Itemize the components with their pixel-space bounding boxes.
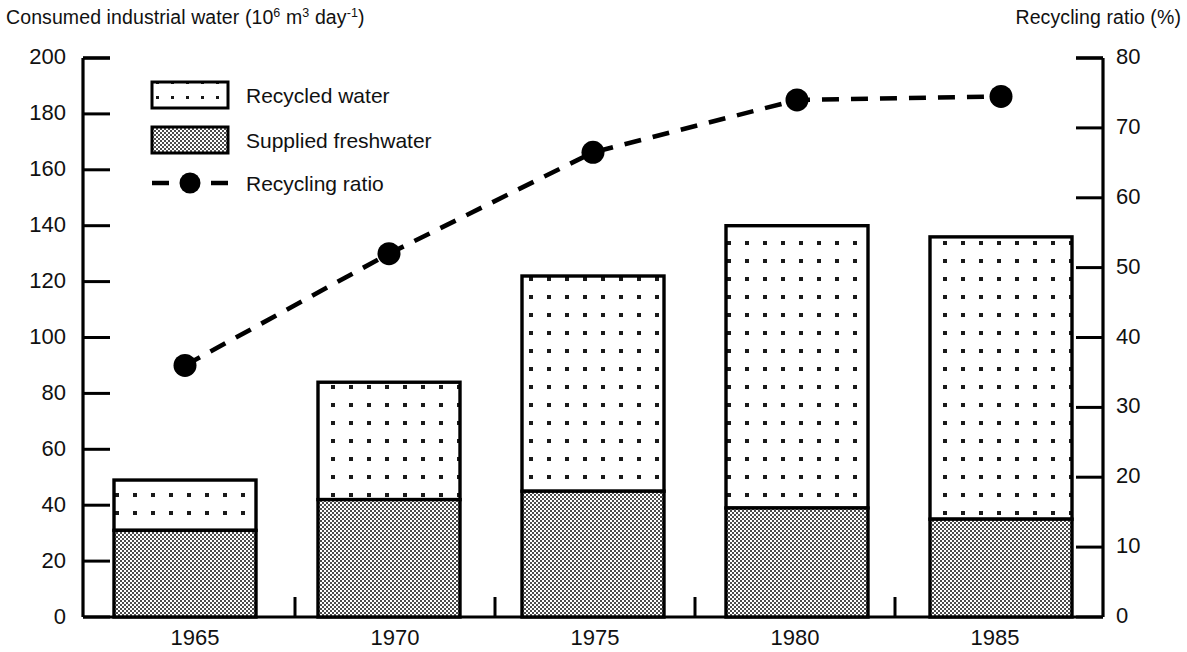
- y-tick-label: 200: [2, 44, 66, 70]
- y-tick-label: 40: [2, 492, 66, 518]
- y2-tick-label: 80: [1116, 44, 1180, 70]
- right-axis-ticks: [1076, 58, 1103, 617]
- bar-segment-recycled-water: [930, 237, 1072, 519]
- bar-segment-supplied-freshwater: [930, 519, 1072, 617]
- y-tick-label: 100: [2, 324, 66, 350]
- legend-swatches: [152, 82, 228, 194]
- ratio-data-point-marker: [582, 141, 605, 164]
- y2-tick-label: 30: [1116, 393, 1180, 419]
- y-tick-label: 120: [2, 268, 66, 294]
- legend-swatch-supplied-freshwater: [152, 127, 228, 153]
- y-tick-label: 60: [2, 436, 66, 462]
- y-tick-label: 20: [2, 548, 66, 574]
- x-tick-label: 1975: [515, 625, 675, 651]
- ratio-data-point-marker: [174, 354, 197, 377]
- y2-tick-label: 40: [1116, 324, 1180, 350]
- legend-label-recycling-ratio: Recycling ratio: [246, 172, 384, 196]
- ratio-data-point-marker: [786, 88, 809, 111]
- legend-swatch-recycling-ratio: [152, 173, 228, 194]
- x-tick-label: 1980: [715, 625, 875, 651]
- left-axis-ticks: [83, 58, 110, 617]
- bar-segment-recycled-water: [114, 480, 256, 530]
- ratio-data-point-marker: [990, 85, 1013, 108]
- x-tick-label: 1985: [915, 625, 1075, 651]
- x-tick-label: 1965: [115, 625, 275, 651]
- y-tick-label: 180: [2, 100, 66, 126]
- y-tick-label: 80: [2, 380, 66, 406]
- bars-group: [114, 226, 1072, 617]
- y-tick-label: 0: [2, 604, 66, 630]
- y2-tick-label: 50: [1116, 254, 1180, 280]
- right-axis-title: Recycling ratio (%): [1015, 6, 1181, 29]
- bar-segment-recycled-water: [522, 276, 664, 491]
- legend-swatch-recycled-water: [152, 82, 228, 108]
- bar-segment-recycled-water: [318, 382, 460, 499]
- ratio-data-point-marker: [378, 242, 401, 265]
- bar-segment-supplied-freshwater: [726, 508, 868, 617]
- legend-label-supplied-freshwater: Supplied freshwater: [246, 129, 432, 153]
- y2-tick-label: 0: [1116, 603, 1180, 629]
- bar-segment-supplied-freshwater: [318, 500, 460, 617]
- y2-tick-label: 10: [1116, 533, 1180, 559]
- y2-tick-label: 70: [1116, 114, 1180, 140]
- bar-segment-supplied-freshwater: [522, 491, 664, 617]
- y2-tick-label: 20: [1116, 463, 1180, 489]
- bar-segment-supplied-freshwater: [114, 530, 256, 617]
- chart-figure: Consumed industrial water (106 m3 day-1)…: [0, 0, 1187, 652]
- left-axis-title: Consumed industrial water (106 m3 day-1): [6, 6, 365, 29]
- x-tick-label: 1970: [315, 625, 475, 651]
- y2-tick-label: 60: [1116, 184, 1180, 210]
- bar-segment-recycled-water: [726, 226, 868, 508]
- plot-canvas: [0, 0, 1187, 652]
- y-tick-label: 160: [2, 156, 66, 182]
- y-tick-label: 140: [2, 212, 66, 238]
- legend-label-recycled-water: Recycled water: [246, 84, 390, 108]
